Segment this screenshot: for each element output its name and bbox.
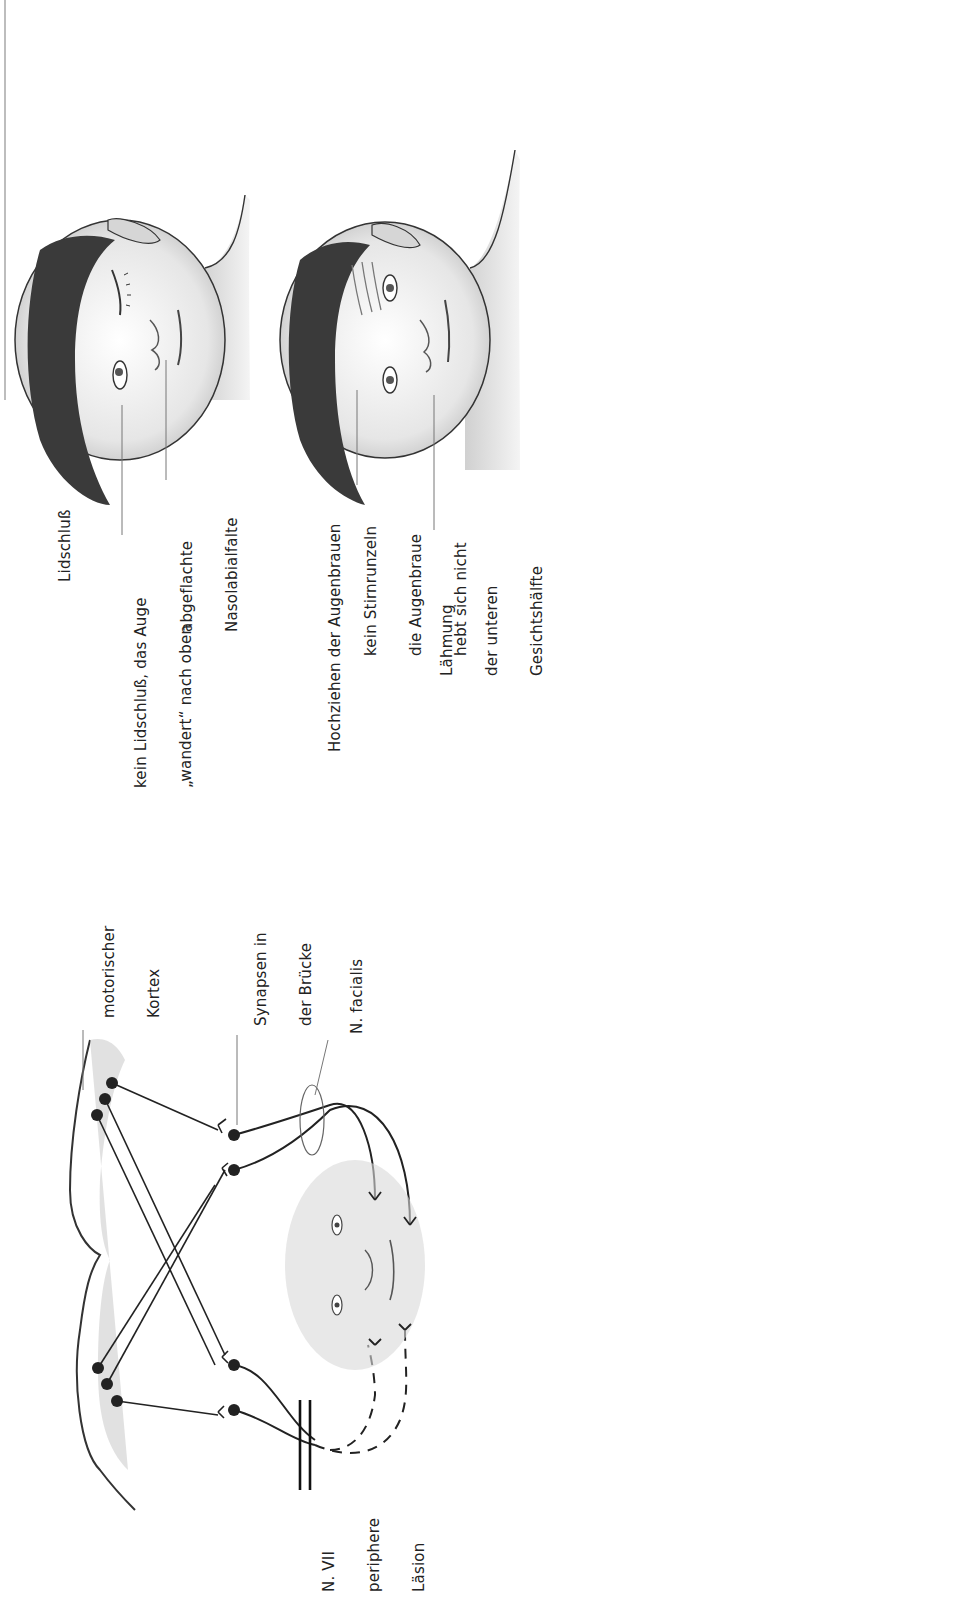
face-brows-raised-illustration (280, 150, 520, 505)
label-line: der Brücke (299, 932, 314, 1026)
label-peripheral-lesion: N. VII periphere Läsion (292, 1518, 442, 1592)
facial-nerve-pathway-diagram (70, 1030, 425, 1510)
heading-lidschluss: Lidschluß (28, 509, 88, 582)
label-facial-nerve: N. facialis (320, 959, 380, 1034)
label-line: motorischer (102, 926, 117, 1018)
face-eyes-closed-illustration (15, 195, 250, 505)
label-line: Synapsen in (254, 932, 269, 1026)
label-line: Kortex (147, 926, 162, 1018)
small-face-illustration (285, 1160, 425, 1370)
callout-flattened-nasolabial-fold: abgeflachte Nasolabialfalte (150, 517, 255, 632)
illustration-canvas (0, 0, 957, 1599)
callout-line: der unteren (485, 566, 500, 676)
label-pons-synapses: Synapsen in der Brücke (224, 932, 329, 1026)
label-line: N. VII (322, 1518, 337, 1592)
callout-line: Lähmung (440, 566, 455, 676)
callout-line: kein Stirnrunzeln (364, 526, 379, 656)
label-motor-cortex: motorischer Kortex (72, 926, 177, 1018)
callout-line: abgeflachte (180, 517, 195, 632)
label-line: periphere (367, 1518, 382, 1592)
callout-line: Gesichtshälfte (530, 566, 545, 676)
callout-line: kein Lidschluß, das Auge (134, 597, 149, 788)
callout-lower-face-paralysis: Lähmung der unteren Gesichtshälfte (410, 566, 560, 676)
callout-line: Nasolabialfalte (225, 517, 240, 632)
label-line: Läsion (412, 1518, 427, 1592)
